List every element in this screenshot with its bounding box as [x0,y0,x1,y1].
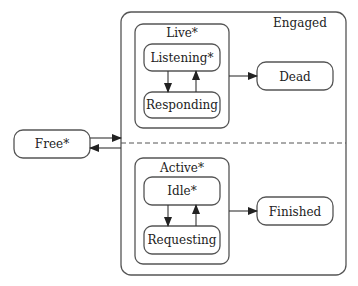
state-responding: Responding [144,92,220,118]
state-listening: Listening* [144,44,220,71]
state-listening-label: Listening* [151,51,214,65]
state-dead: Dead [257,62,333,90]
state-engaged-label: Engaged [273,16,327,30]
state-free-label: Free* [35,137,69,151]
state-finished: Finished [257,197,333,225]
state-live-label: Live* [166,26,198,40]
state-active-label: Active* [159,161,204,175]
state-responding-label: Responding [146,98,218,112]
state-diagram: Engaged Live* Listening* Responding Dead… [0,0,358,286]
state-dead-label: Dead [279,70,311,84]
state-requesting: Requesting [144,226,220,254]
state-requesting-label: Requesting [148,233,217,247]
state-idle: Idle* [144,177,220,205]
state-idle-label: Idle* [167,184,196,198]
state-free: Free* [14,130,90,158]
state-finished-label: Finished [269,205,322,219]
